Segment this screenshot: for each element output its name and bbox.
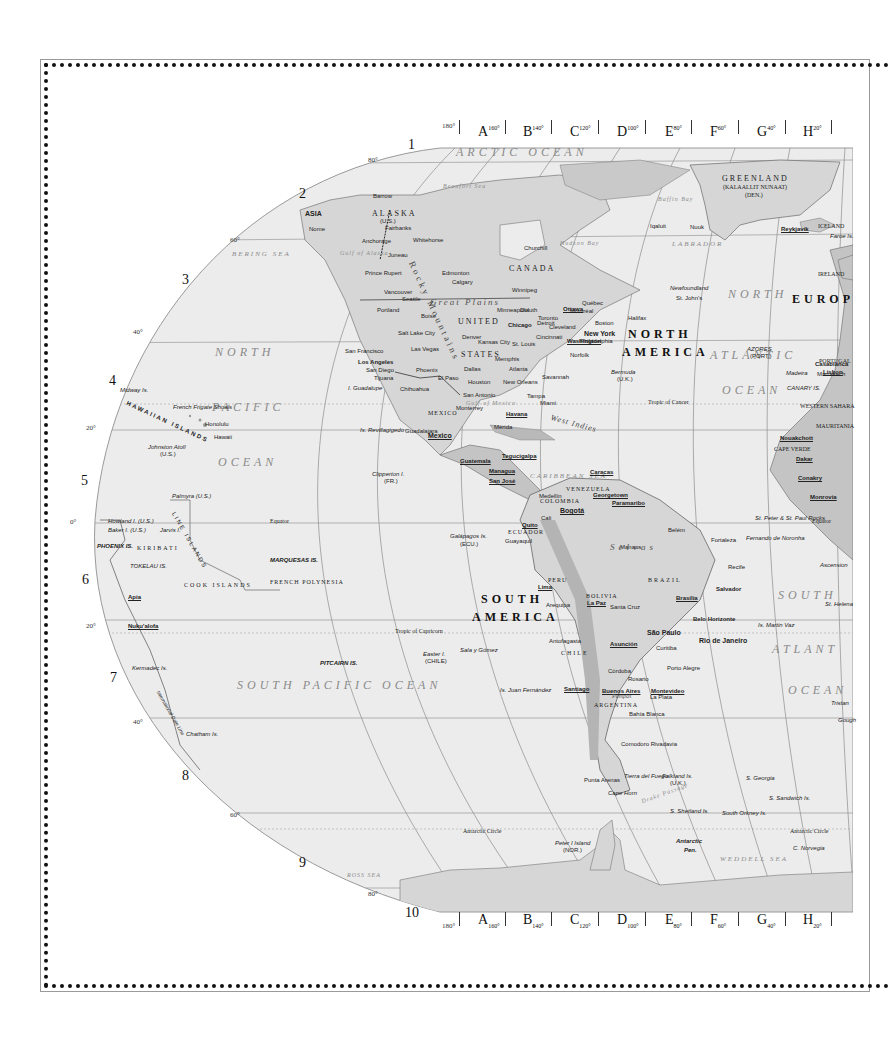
island-tristan: Tristan <box>831 700 849 706</box>
city-san-diego: San Diego <box>366 367 394 373</box>
island-falkland-uk: (U.K.) <box>670 780 686 786</box>
city-hawaii: Hawaii <box>214 434 232 440</box>
grid-tick <box>738 120 739 134</box>
col-F-top: F60° <box>710 124 726 140</box>
city-rio: Rio de Janeiro <box>699 637 747 644</box>
label-bering-sea: BERING SEA <box>232 250 291 258</box>
label-mauritania: MAURITANIA <box>816 423 854 429</box>
label-north-america-2: AMERICA <box>622 345 709 360</box>
island-tokelau: TOKELAU IS. <box>130 563 167 569</box>
capital-managua: Managua <box>489 468 515 474</box>
lat-n20: 20° <box>86 424 96 432</box>
grid-tick <box>738 912 739 926</box>
lat-n80: 80° <box>368 156 378 164</box>
capital-brasilia: Brasília <box>676 595 698 601</box>
city-medellin: Medellín <box>539 493 562 499</box>
label-antarctic-circle-left: Antarctic Circle <box>463 828 501 834</box>
start-deg-bottom: 180° <box>442 922 455 930</box>
city-cordoba: Córdoba <box>608 668 631 674</box>
capital-dakar: Dakar <box>796 456 813 462</box>
grid-tick <box>598 912 599 926</box>
col-E-bottom: E80° <box>665 912 682 929</box>
col-G-bottom: G40° <box>757 912 776 929</box>
col-G-top: G40° <box>757 124 776 140</box>
island-jarvis: Jarvis I. <box>160 527 181 533</box>
lat-s80: 80° <box>368 890 378 898</box>
city-montreal: Montréal <box>570 308 593 314</box>
city-edmonton: Edmonton <box>442 270 469 276</box>
label-ireland: IRELAND <box>818 271 844 277</box>
label-north-pacific-1: NORTH <box>215 345 274 360</box>
island-juan-fernandez: Is. Juan Fernández <box>500 687 551 693</box>
city-salvador: Salvador <box>716 586 741 592</box>
grid-tick <box>459 120 460 134</box>
city-antofagasta: Antofagasta <box>549 638 581 644</box>
island-canary: CANARY IS. <box>787 385 821 391</box>
city-whitehorse: Whitehorse <box>413 237 443 243</box>
city-atlanta: Atlanta <box>509 366 528 372</box>
island-azores-port: (PORT.) <box>750 353 772 359</box>
col-D-bottom: D100° <box>617 912 639 929</box>
label-chile: CHILE <box>561 650 589 656</box>
grid-tick <box>691 120 692 134</box>
capital-monrovia: Monrovia <box>810 494 837 500</box>
lat-n40: 40° <box>133 328 143 336</box>
city-chicago: Chicago <box>508 322 532 328</box>
grid-tick <box>785 912 786 926</box>
island-s-sandwich: S. Sandwich Is. <box>769 795 810 801</box>
label-greenland-sub: (KALAALLIT NUNAAT) <box>723 184 787 190</box>
island-pitcairn: PITCAIRN IS. <box>320 660 357 666</box>
col-A-top: A160° <box>478 124 500 140</box>
city-fairbanks: Fairbanks <box>385 225 411 231</box>
city-new-york: New York <box>584 330 615 337</box>
label-c-norvegia: C. Norvegia <box>793 845 825 851</box>
city-honolulu: Honolulu <box>205 421 229 427</box>
city-tijuana: Tijuana <box>374 375 393 381</box>
lat-eq: 0° <box>70 518 76 526</box>
city-prince-rupert: Prince Rupert <box>365 270 402 276</box>
city-chihuahua: Chihuahua <box>400 386 429 392</box>
label-north-atlantic-1: NORTH <box>728 287 787 302</box>
island-chatham: Chatham Is. <box>186 731 218 737</box>
city-arequipa: Arequipa <box>546 602 570 608</box>
city-savannah: Savannah <box>542 374 569 380</box>
island-howland: Howland I. (U.S.) <box>108 518 154 524</box>
island-sala-gomez: Sala y Gómez <box>460 647 498 653</box>
city-punta-arenas: Punta Arenas <box>584 777 620 783</box>
island-bermuda: Bermuda <box>611 369 635 375</box>
island-gough: Gough <box>838 717 856 723</box>
label-united: UNITED <box>458 317 500 326</box>
city-st-johns: St. John's <box>676 295 702 301</box>
label-labrador: LABRADOR <box>672 240 723 248</box>
label-canada: CANADA <box>509 264 555 273</box>
city-cape-horn: Cape Horn <box>608 790 637 796</box>
label-equator-left: Equator <box>270 518 289 524</box>
island-easter-chile: (CHILE) <box>425 658 447 664</box>
grid-tick <box>831 120 832 134</box>
row-5: 5 <box>81 473 88 489</box>
row-10: 10 <box>405 905 419 921</box>
island-s-orkney: South Orkney Is. <box>722 810 767 816</box>
city-nuuk: Nuuk <box>690 224 704 230</box>
grid-tick <box>645 120 646 134</box>
island-galapagos-ecu: (ECU.) <box>460 541 478 547</box>
city-la-plata: La Plata <box>650 694 672 700</box>
island-s-shetland: S. Shetland Is. <box>670 808 709 814</box>
label-argentina: ARGENTINA <box>594 702 638 708</box>
city-philadelphia: Philadelphia <box>580 338 613 344</box>
city-juneau: Juneau <box>388 252 408 258</box>
island-fernando: Fernando de Noronha <box>746 535 805 541</box>
island-st-peter-paul: St. Peter & St. Paul Rocks <box>755 515 825 521</box>
lat-s20: 20° <box>86 622 96 630</box>
label-greenland-den: (DEN.) <box>745 192 763 198</box>
city-merida: Mérida <box>494 424 512 430</box>
city-el-paso: El Paso <box>438 375 459 381</box>
grid-tick <box>691 912 692 926</box>
island-martin-vaz: Is. Martin Vaz <box>758 622 794 628</box>
label-gulf-alaska: Gulf of Alaska <box>340 250 389 256</box>
label-antarctic-circle-right: Antarctic Circle <box>790 828 828 834</box>
city-sao-paulo: São Paulo <box>647 629 681 636</box>
city-portland: Portland <box>377 307 399 313</box>
capital-bogota: Bogotá <box>560 507 584 514</box>
city-santa-cruz: Santa Cruz <box>610 604 640 610</box>
